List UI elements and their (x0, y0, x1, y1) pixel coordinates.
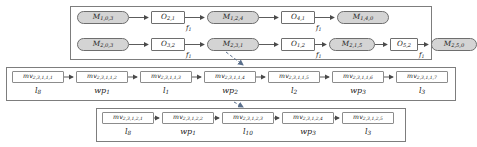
node-label: M2,0,3 (93, 40, 114, 48)
node-operation-4-1[interactable]: O4,1 (281, 11, 315, 24)
move-box-2-3-1-1-5[interactable]: mv2,3,1,1,5 (268, 71, 320, 83)
move-box-2-3-1-2-3[interactable]: mv2,3,1,2,3 (222, 112, 274, 124)
node-operation-5-2[interactable]: O5,2 (390, 38, 418, 51)
move-box-label: mv2,3,1,1,4 (215, 73, 245, 81)
move-box-2-3-1-2-1[interactable]: mv2,3,1,2,1 (102, 112, 154, 124)
move-box-2-3-1-2-2[interactable]: mv2,3,1,2,2 (162, 112, 214, 124)
move-box-2-3-1-1-6[interactable]: mv2,3,1,1,6 (332, 71, 384, 83)
node-label: M2,3,1 (223, 40, 244, 48)
segment-label-l1-mid: l1 (140, 86, 192, 95)
move-box-label: mv2,3,1,1,5 (279, 73, 309, 81)
move-box-label: mv2,3,1,1,6 (343, 73, 373, 81)
move-box-label: mv2,3,1,1,3 (151, 73, 181, 81)
dashed-link-move-1-to-move-2 (234, 102, 243, 107)
segment-label-l8-bottom: l8 (102, 127, 154, 136)
edge-tag-f1-row2-b: f1 (316, 51, 321, 59)
move-box-label: mv2,3,1,2,5 (353, 114, 383, 122)
move-box-label: mv2,3,1,2,2 (173, 114, 203, 122)
node-machine-2-3-1[interactable]: M2,3,1 (207, 38, 259, 51)
node-label: O4,1 (291, 13, 305, 21)
edge-tag-f1-row2-a: f1 (186, 51, 191, 59)
move-box-label: mv2,3,1,1,2 (87, 73, 117, 81)
node-machine-2-1-5[interactable]: M2,1,5 (329, 38, 375, 51)
node-label: O1,2 (291, 40, 305, 48)
node-label: M2,5,0 (444, 40, 465, 48)
node-machine-2-5-0[interactable]: M2,5,0 (431, 38, 477, 51)
segment-label-l3-bottom: l3 (342, 127, 394, 136)
move-box-2-3-1-2-4[interactable]: mv2,3,1,2,4 (282, 112, 334, 124)
node-label: M1,0,3 (93, 13, 114, 21)
edge-tag-f1-row1-b: f1 (316, 24, 321, 32)
node-machine-2-0-3[interactable]: M2,0,3 (77, 38, 129, 51)
node-machine-1-0-3[interactable]: M1,0,3 (77, 11, 129, 24)
edge-tag-f1-row1-a: f1 (186, 24, 191, 32)
segment-label-wp2-mid: wp2 (204, 86, 256, 95)
segment-label-wp3-bottom: wp3 (282, 127, 334, 136)
node-label: M1,4,0 (353, 13, 374, 21)
segment-label-l10-bottom: l10 (222, 127, 274, 136)
move-box-2-3-1-1-3[interactable]: mv2,3,1,1,3 (140, 71, 192, 83)
segment-label-l3-mid: l3 (396, 86, 448, 95)
segment-label-l2-mid: l2 (268, 86, 320, 95)
segment-label-wp3-mid: wp3 (332, 86, 384, 95)
move-box-2-3-1-2-5[interactable]: mv2,3,1,2,5 (342, 112, 394, 124)
node-operation-1-2[interactable]: O1,2 (281, 38, 315, 51)
segment-label-wp1-mid: wp1 (76, 86, 128, 95)
node-operation-3-2[interactable]: O3,2 (151, 38, 185, 51)
move-box-2-3-1-1-2[interactable]: mv2,3,1,1,2 (76, 71, 128, 83)
move-box-2-3-1-1-1[interactable]: mv2,3,1,1,1 (12, 71, 64, 83)
node-machine-1-2-4[interactable]: M1,2,4 (207, 11, 259, 24)
move-box-label: mv2,3,1,2,1 (113, 114, 143, 122)
node-label: M2,1,5 (342, 40, 363, 48)
move-box-label: mv2,3,1,1,1 (23, 73, 53, 81)
move-box-2-3-1-1-4[interactable]: mv2,3,1,1,4 (204, 71, 256, 83)
node-label: O3,2 (161, 40, 175, 48)
node-operation-2-1[interactable]: O2,1 (151, 11, 185, 24)
node-label: O2,1 (161, 13, 175, 21)
node-label: M1,2,4 (223, 13, 244, 21)
edge-tag-f1-row2-c: f1 (419, 51, 424, 59)
node-machine-1-4-0[interactable]: M1,4,0 (337, 11, 389, 24)
segment-label-l8-mid: l8 (12, 86, 64, 95)
segment-label-wp1-bottom: wp1 (162, 127, 214, 136)
move-box-label: mv2,3,1,2,4 (293, 114, 323, 122)
move-box-label: mv2,3,1,2,3 (233, 114, 263, 122)
move-box-label: mv2,3,1,1,7 (407, 73, 437, 81)
move-box-2-3-1-1-7[interactable]: mv2,3,1,1,7 (396, 71, 448, 83)
node-label: O5,2 (397, 40, 411, 48)
